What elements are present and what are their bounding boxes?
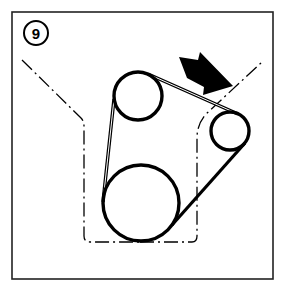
diagram-frame [12,12,273,279]
belt-routing-diagram: 9 [0,0,284,291]
step-number: 9 [32,25,40,42]
